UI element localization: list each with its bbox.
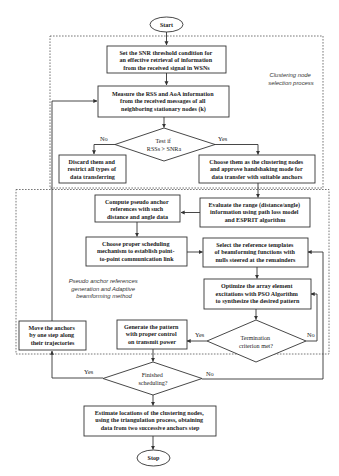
svg-text:Move the anchors by one: Move the anchors by one step along their… [29,325,77,346]
node-select-templates: Select the reference templates of beamfo… [203,238,308,267]
svg-text:Choose proper scheduling: Choose proper scheduling mechanism to es… [97,241,176,262]
edge-test-yes-to-choose-clustering [214,145,258,155]
svg-text:Set the SNR threshold conditio: Set the SNR threshold condition for an e… [119,50,213,71]
decision-termination: Termination criterion met? [207,320,306,362]
edge-test-no-to-discard [94,145,115,155]
region-label-pseudo-anchor: Pseudo anchor references generation and … [69,278,140,299]
node-compute-pseudo-anchor: Compute pseudo anchor references with su… [95,195,180,222]
label-finished-no: No [206,370,214,377]
node-evaluate-range: Evaluate the range (distance/angle) info… [200,198,310,227]
edge-finished-yes-to-move-anchors [52,351,103,378]
node-optimize-pso: Optimize the array element excitations w… [204,279,311,309]
label-termination-yes: Yes [195,331,205,338]
node-set-snr-threshold: Set the SNR threshold condition for an e… [107,46,226,73]
svg-text:Optimize the array element: Optimize the array element excitations w… [216,283,301,304]
node-stop: Stop [137,450,170,466]
svg-text:Discard them and restric: Discard them and restrict all types of d… [68,159,118,180]
svg-text:Measure the RSS and AoA inform: Measure the RSS and AoA information from… [112,91,215,113]
node-start: Start [150,17,183,32]
node-generate-pattern: Generate the pattern with proper control… [117,320,187,349]
label-test-yes: Yes [218,135,228,142]
svg-text:Termination criterion me: Termination criterion met? [239,335,273,349]
node-discard: Discard them and restrict all types of d… [59,155,126,183]
decision-finished-scheduling: Finished scheduling? [103,362,202,395]
node-move-anchors: Move the anchors by one step along their… [19,321,86,350]
label-test-no: No [100,135,108,142]
node-measure-rss-aoa: Measure the RSS and AoA information from… [98,86,229,117]
label-termination-no: No [307,331,315,338]
svg-text:Generate the pattern wit: Generate the pattern with proper control… [124,324,180,345]
svg-text:Finished scheduling?: Finished scheduling? [138,372,167,386]
node-choose-clustering: Choose them as the clustering nodes and … [199,155,315,183]
node-estimate-locations: Estimate locations of the clustering nod… [84,406,216,436]
svg-text:Select the reference templates: Select the reference templates of beamfo… [215,242,297,263]
svg-text:Compute pseudo anchor re: Compute pseudo anchor references with su… [105,199,170,220]
flowchart-canvas: Clustering node selection process Pseudo… [0,0,339,476]
svg-text:Stop: Stop [148,455,160,461]
label-finished-yes: Yes [84,368,94,375]
svg-text:Estimate locations of the clus: Estimate locations of the clustering nod… [95,410,206,431]
region-label-clustering: Clustering node selection process [268,72,314,86]
node-choose-scheduling: Choose proper scheduling mechanism to es… [86,237,187,266]
svg-text:Start: Start [160,22,173,28]
svg-text:Choose them as the clustering: Choose them as the clustering nodes and … [209,159,304,180]
edge-finished-no-to-select-templates [202,252,323,379]
